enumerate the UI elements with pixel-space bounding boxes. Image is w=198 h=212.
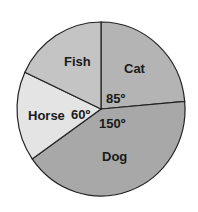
slice-label-cat: Cat [124, 61, 146, 76]
slice-label-fish: Fish [64, 54, 91, 69]
pie-chart: Fish Cat Horse Dog 85º 60º 150º [0, 0, 198, 212]
angle-label-cat: 85º [106, 91, 125, 106]
angle-label-dog: 150º [99, 116, 126, 131]
slice-label-horse: Horse [28, 108, 65, 123]
angle-label-horse: 60º [71, 107, 90, 122]
slice-label-dog: Dog [102, 149, 127, 164]
